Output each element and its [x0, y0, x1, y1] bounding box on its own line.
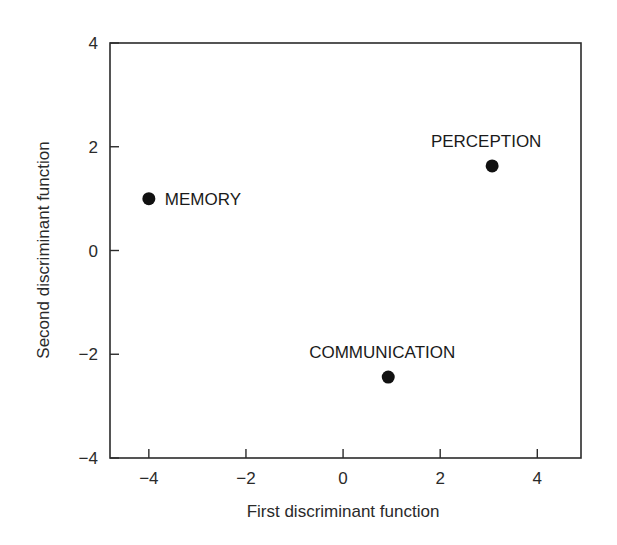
discriminant-scatter-chart: −4−2024 −4−2024 MEMORYPERCEPTIONCOMMUNIC… [0, 0, 617, 545]
x-axis-ticks: −4−2024 [139, 449, 542, 488]
plot-frame [110, 43, 581, 458]
x-axis-label: First discriminant function [247, 502, 440, 521]
y-tick-label: −2 [79, 345, 98, 364]
data-point-communication: COMMUNICATION [309, 343, 455, 384]
x-tick-label: −2 [236, 469, 255, 488]
y-axis-label: Second discriminant function [34, 141, 53, 358]
data-points: MEMORYPERCEPTIONCOMMUNICATION [142, 132, 541, 384]
y-tick-label: 0 [89, 242, 98, 261]
y-tick-label: 2 [89, 138, 98, 157]
x-tick-label: 0 [338, 469, 347, 488]
x-tick-label: −4 [139, 469, 158, 488]
y-tick-label: 4 [89, 34, 98, 53]
data-point-memory: MEMORY [142, 190, 241, 209]
x-tick-label: 2 [435, 469, 444, 488]
y-axis-ticks: −4−2024 [79, 34, 119, 468]
x-tick-label: 4 [533, 469, 542, 488]
y-tick-label: −4 [79, 449, 98, 468]
point-marker-icon [382, 371, 395, 384]
point-label: PERCEPTION [431, 132, 542, 151]
point-label: COMMUNICATION [309, 343, 455, 362]
point-label: MEMORY [165, 190, 241, 209]
point-marker-icon [142, 192, 155, 205]
point-marker-icon [486, 159, 499, 172]
data-point-perception: PERCEPTION [431, 132, 542, 173]
